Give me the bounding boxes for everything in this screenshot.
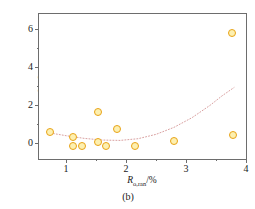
data-point bbox=[94, 108, 102, 116]
y-axis-tick-label: 4 bbox=[28, 62, 33, 72]
x-axis-title-unit: /% bbox=[146, 175, 157, 185]
data-point bbox=[94, 138, 102, 146]
y-axis-tick bbox=[35, 105, 39, 106]
plot-area: 02461234 bbox=[39, 14, 246, 159]
y-axis-minor-tick bbox=[37, 86, 39, 87]
y-axis-minor-tick bbox=[37, 48, 39, 49]
trendline-path bbox=[50, 88, 234, 141]
x-axis-title: Ro,ran/% bbox=[127, 176, 156, 187]
data-point bbox=[69, 142, 77, 150]
y-axis-minor-tick bbox=[37, 124, 39, 125]
data-point bbox=[46, 128, 54, 136]
y-axis-tick-label: 0 bbox=[28, 138, 33, 148]
y-axis-tick-label: 2 bbox=[28, 100, 33, 110]
panel-caption: (b) bbox=[122, 192, 134, 202]
y-axis-tick bbox=[35, 67, 39, 68]
x-axis-tick-label: 2 bbox=[124, 164, 129, 174]
y-axis-tick bbox=[35, 29, 39, 30]
scatter-plot-figure: 孔隙体积/(10-3cm3/g) 02461234 Ro,ran/% (b) bbox=[0, 0, 255, 209]
x-axis-minor-tick bbox=[96, 159, 97, 161]
x-axis-title-subscript: o,ran bbox=[133, 180, 146, 187]
data-point bbox=[229, 131, 237, 139]
x-axis-tick-label: 4 bbox=[244, 164, 249, 174]
data-point bbox=[131, 142, 139, 150]
x-axis-tick-label: 3 bbox=[184, 164, 189, 174]
plot-frame: 02461234 bbox=[38, 13, 247, 160]
data-point bbox=[78, 142, 86, 150]
y-axis-tick-label: 6 bbox=[28, 24, 33, 34]
y-axis-tick bbox=[35, 143, 39, 144]
x-axis-tick-label: 1 bbox=[64, 164, 69, 174]
x-axis-minor-tick bbox=[156, 159, 157, 161]
data-point bbox=[69, 133, 77, 141]
data-point bbox=[228, 29, 236, 37]
data-point bbox=[113, 125, 121, 133]
data-point bbox=[102, 142, 110, 150]
data-point bbox=[170, 137, 178, 145]
x-axis-minor-tick bbox=[216, 159, 217, 161]
